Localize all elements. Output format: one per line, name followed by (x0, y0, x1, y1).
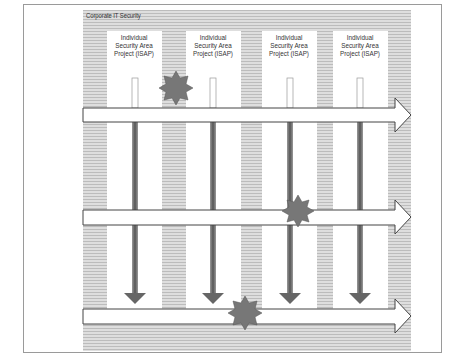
diagram-title: Corporate IT Security (86, 12, 141, 19)
column-marker-1 (132, 78, 138, 108)
column-marker-2 (210, 78, 216, 108)
star-icon (159, 71, 193, 105)
star-icon (282, 195, 314, 227)
isap-label-3: Individual Security Area Project (ISAP) (264, 34, 314, 58)
column-marker-4 (357, 78, 363, 108)
isap-label-1: Individual Security Area Project (ISAP) (109, 34, 159, 58)
star-icon (228, 296, 262, 330)
isap-label-4: Individual Security Area Project (ISAP) (335, 34, 385, 58)
isap-label-2: Individual Security Area Project (ISAP) (188, 34, 238, 58)
column-marker-3 (287, 78, 293, 108)
